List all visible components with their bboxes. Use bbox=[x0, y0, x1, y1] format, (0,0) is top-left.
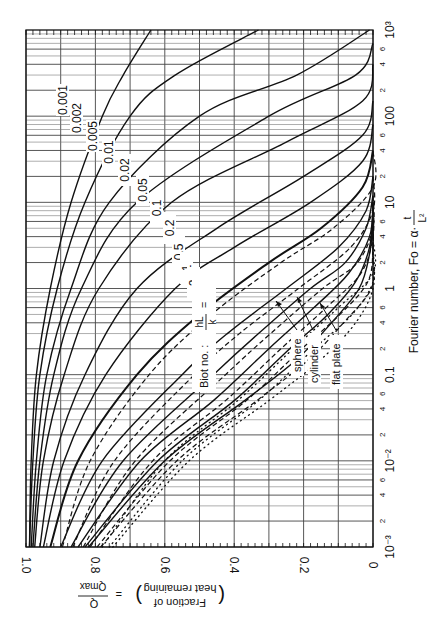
biot-numerator: hL bbox=[194, 316, 205, 328]
curve-label-0.002: 0.002 bbox=[70, 103, 84, 133]
fo-tick-label: 6 bbox=[378, 391, 387, 396]
legend-cylinder: cylinder bbox=[308, 345, 320, 383]
q-equals: = bbox=[116, 588, 122, 600]
fo-tick-label: 4 bbox=[378, 148, 387, 153]
curve-label-0.1: 0.1 bbox=[150, 199, 164, 216]
fo-tick-label: 2 bbox=[378, 432, 387, 437]
q-axis-title-line2: heat remaining bbox=[144, 583, 217, 595]
q-paren-left: ( bbox=[218, 585, 225, 607]
curve-sphere-1 bbox=[71, 196, 373, 548]
fo-axis-title: Fourier number, Fo = α· t L² bbox=[402, 210, 428, 353]
curve-label-0.05: 0.05 bbox=[136, 178, 150, 202]
fo-axis-title-text: Fourier number, Fo = α· bbox=[407, 227, 421, 354]
fo-tick-label: 10⁻³ bbox=[383, 535, 397, 558]
curve-sphere-0.5 bbox=[61, 176, 373, 547]
q-axis-title: Fraction of heat remaining ( ) = Q Qmax bbox=[78, 581, 225, 610]
q-tick-label: 1.0 bbox=[19, 557, 33, 574]
q-tick-label: 0.6 bbox=[158, 557, 172, 574]
q-frac-denominator: Qmax bbox=[80, 581, 107, 592]
q-tick-label: 0.2 bbox=[297, 557, 311, 574]
q-tick-label: 0 bbox=[366, 562, 380, 569]
legend-sphere: sphere bbox=[291, 338, 303, 372]
q-paren-right: ) bbox=[135, 585, 142, 607]
fo-frac-denominator: L² bbox=[417, 213, 428, 223]
biot-equals: = bbox=[198, 302, 210, 308]
fo-tick-label: 6 bbox=[378, 477, 387, 482]
fo-tick-label: 2 bbox=[378, 260, 387, 265]
fo-tick-label: 2 bbox=[378, 346, 387, 351]
biot-title: Biot no. : bbox=[198, 345, 210, 388]
fo-tick-label: 2 bbox=[378, 87, 387, 92]
q-tick-label: 0.4 bbox=[227, 557, 241, 574]
curve-label-0.01: 0.01 bbox=[102, 140, 116, 164]
fourier-heat-chart: 10⁻³24610⁻²2460.124612461024610024610³1.… bbox=[0, 0, 435, 635]
fo-tick-label: 6 bbox=[378, 219, 387, 224]
q-tick-label: 0.8 bbox=[88, 557, 102, 574]
fo-tick-label: 2 bbox=[378, 174, 387, 179]
legend-flat-plate: flat plate bbox=[330, 343, 342, 385]
q-frac-numerator: Q bbox=[89, 598, 98, 610]
curve-label-0.001: 0.001 bbox=[56, 85, 70, 115]
curve-labels: 0.0010.0020.0050.010.020.050.10.20.5125∞ bbox=[56, 84, 215, 332]
fo-tick-label: 0.1 bbox=[383, 366, 397, 383]
fo-tick-label: 100 bbox=[383, 106, 397, 126]
fo-tick-label: 10⁻² bbox=[383, 449, 397, 472]
curve-label-0.02: 0.02 bbox=[118, 158, 132, 182]
fo-tick-label: 6 bbox=[378, 305, 387, 310]
fo-tick-label: 10 bbox=[383, 195, 397, 209]
q-axis-title-line1: Fraction of bbox=[153, 597, 206, 609]
curve-label-0.2: 0.2 bbox=[163, 219, 177, 236]
shape-legend: sphere cylinder flat plate bbox=[276, 297, 343, 389]
fo-tick-label: 6 bbox=[378, 46, 387, 51]
fo-tick-label: 4 bbox=[378, 62, 387, 67]
fo-tick-label: 10³ bbox=[383, 21, 397, 38]
fo-frac-numerator: t bbox=[402, 216, 413, 219]
fo-tick-label: 4 bbox=[378, 406, 387, 411]
fo-tick-label: 2 bbox=[378, 518, 387, 523]
fo-tick-label: 4 bbox=[378, 320, 387, 325]
biot-legend-title: Biot no. : hL k = bbox=[192, 272, 218, 392]
fo-tick-label: 6 bbox=[378, 133, 387, 138]
fo-tick-label: 4 bbox=[378, 492, 387, 497]
fo-tick-label: 1 bbox=[383, 285, 397, 292]
fo-tick-label: 4 bbox=[378, 234, 387, 239]
curve-label-0.005: 0.005 bbox=[86, 121, 100, 151]
